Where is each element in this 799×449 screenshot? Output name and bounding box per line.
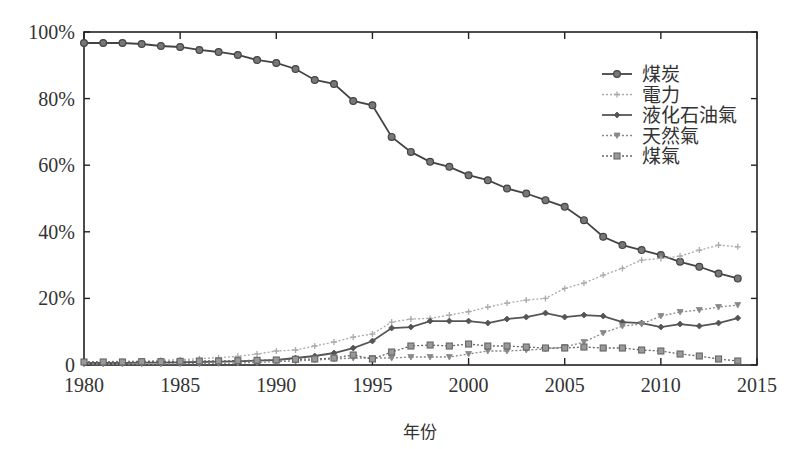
- data-point: [619, 242, 626, 249]
- data-point: [466, 309, 472, 315]
- data-point: [216, 358, 222, 364]
- data-point: [542, 345, 548, 351]
- data-point: [177, 358, 183, 364]
- data-point: [523, 344, 529, 350]
- data-point: [331, 355, 337, 361]
- x-tick-label: 1980: [64, 374, 104, 396]
- x-tick-label: 1990: [256, 374, 296, 396]
- data-point: [407, 148, 414, 155]
- data-point: [504, 185, 511, 192]
- data-point: [139, 359, 145, 365]
- data-point: [350, 345, 356, 351]
- data-point: [465, 172, 472, 179]
- data-point: [369, 356, 375, 362]
- data-point: [581, 312, 587, 318]
- data-point: [485, 343, 491, 349]
- data-point: [600, 272, 606, 278]
- data-point: [119, 359, 125, 365]
- x-tick-label: 2015: [737, 374, 777, 396]
- data-point: [350, 98, 357, 105]
- data-point: [485, 304, 491, 310]
- legend-label: 煤氣: [642, 145, 680, 167]
- data-point: [485, 320, 491, 326]
- data-point: [119, 40, 126, 47]
- y-tick-label: 40%: [38, 221, 75, 243]
- data-point: [696, 353, 702, 359]
- data-point: [504, 316, 510, 322]
- data-point: [81, 359, 87, 365]
- data-point: [619, 265, 625, 271]
- data-point: [562, 345, 568, 351]
- data-point: [542, 197, 549, 204]
- data-point: [614, 153, 620, 159]
- data-point: [369, 102, 376, 109]
- data-point: [408, 324, 414, 330]
- data-point: [234, 52, 241, 59]
- data-point: [408, 343, 414, 349]
- data-point: [389, 349, 395, 355]
- legend-label: 液化石油氣: [642, 104, 737, 126]
- line-chart: 020%40%60%80%100% 1980198519901995200020…: [0, 0, 799, 449]
- data-point: [196, 358, 202, 364]
- data-point: [716, 356, 722, 362]
- data-point: [716, 242, 722, 248]
- data-point: [619, 345, 625, 351]
- data-point: [312, 356, 318, 362]
- y-tick-label: 20%: [38, 287, 75, 309]
- x-tick-label: 2000: [449, 374, 489, 396]
- x-tick-label: 1985: [160, 374, 200, 396]
- x-tick-label: 1995: [352, 374, 392, 396]
- data-point: [696, 323, 702, 329]
- y-tick-label: 80%: [38, 88, 75, 110]
- data-point: [466, 352, 472, 358]
- x-axis-title: 年份: [403, 422, 437, 442]
- series-4: [81, 341, 741, 365]
- legend-label: 煤炭: [642, 63, 680, 85]
- data-point: [81, 40, 88, 47]
- data-point: [466, 318, 472, 324]
- data-point: [561, 203, 568, 210]
- data-point: [600, 233, 607, 240]
- data-point: [735, 358, 741, 364]
- data-point: [600, 313, 606, 319]
- data-point: [138, 41, 145, 48]
- data-point: [581, 344, 587, 350]
- legend-item: 液化石油氣: [602, 104, 737, 126]
- data-point: [408, 316, 414, 322]
- data-point: [293, 356, 299, 362]
- data-point: [427, 158, 434, 165]
- data-point: [427, 342, 433, 348]
- x-tick-label: 2005: [545, 374, 585, 396]
- legend-item: 天然氣: [602, 125, 699, 147]
- data-point: [446, 355, 452, 361]
- legend-item: 煤氣: [602, 145, 680, 167]
- data-point: [312, 343, 318, 349]
- data-point: [484, 177, 491, 184]
- data-point: [677, 253, 683, 259]
- data-point: [100, 40, 107, 47]
- data-point: [677, 351, 683, 357]
- legend: 煤炭電力液化石油氣天然氣煤氣: [602, 63, 737, 167]
- data-point: [581, 217, 588, 224]
- data-point: [677, 258, 684, 265]
- data-point: [677, 321, 683, 327]
- data-point: [350, 334, 356, 340]
- data-point: [639, 257, 645, 263]
- data-point: [735, 315, 741, 321]
- series-line: [84, 43, 738, 278]
- data-point: [273, 357, 279, 363]
- data-point: [273, 60, 280, 67]
- data-point: [196, 47, 203, 54]
- data-point: [235, 358, 241, 364]
- data-point: [639, 347, 645, 353]
- data-point: [562, 314, 568, 320]
- data-point: [638, 247, 645, 254]
- legend-item: 煤炭: [602, 63, 680, 85]
- data-point: [158, 43, 165, 50]
- data-point: [523, 297, 529, 303]
- data-point: [562, 285, 568, 291]
- data-point: [292, 66, 299, 73]
- y-tick-label: 60%: [38, 154, 75, 176]
- data-point: [446, 343, 452, 349]
- data-point: [100, 359, 106, 365]
